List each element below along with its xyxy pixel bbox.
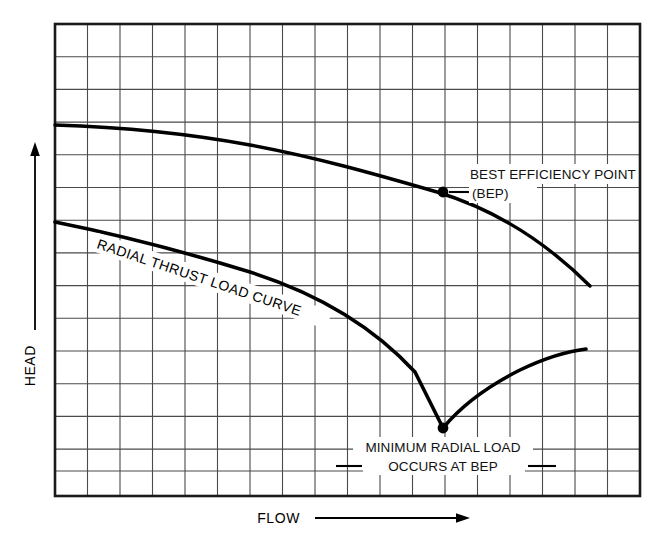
bep-label-line2: (BEP)	[472, 186, 509, 201]
min-load-label-line2: OCCURS AT BEP	[388, 459, 498, 474]
minimum-radial-load-point-marker	[438, 423, 449, 434]
x-axis-label: FLOW	[257, 510, 300, 526]
figure-background	[0, 0, 668, 542]
min-load-label-line1: MINIMUM RADIAL LOAD	[365, 440, 520, 455]
pump-curve-figure: BEST EFFICIENCY POINT (BEP) MINIMUM RADI…	[0, 0, 668, 542]
best-efficiency-point-marker	[438, 187, 449, 198]
minimum-radial-load-annotation: MINIMUM RADIAL LOAD OCCURS AT BEP	[353, 437, 533, 475]
y-axis-label: HEAD	[22, 345, 38, 386]
bep-label-line1: BEST EFFICIENCY POINT	[470, 167, 636, 182]
pump-performance-chart: BEST EFFICIENCY POINT (BEP) MINIMUM RADI…	[0, 0, 668, 542]
